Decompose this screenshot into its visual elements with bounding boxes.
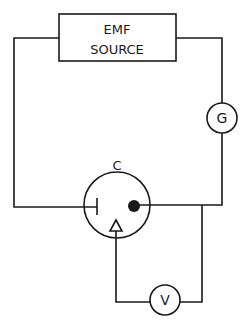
left-wire <box>14 38 97 207</box>
cell-triangle-electrode <box>110 220 122 231</box>
voltmeter: V <box>150 285 180 315</box>
emf-source-label-line2: SOURCE <box>90 42 144 57</box>
voltmeter-left-wire <box>116 231 150 302</box>
cell: C <box>84 158 150 238</box>
cell-label: C <box>112 158 121 173</box>
bottom-right-wire <box>139 133 222 205</box>
cell-dot-electrode <box>128 200 140 212</box>
galvanometer-label: G <box>217 110 228 126</box>
top-right-wire <box>176 38 222 103</box>
voltmeter-right-wire <box>180 205 202 302</box>
emf-source-label-line1: EMF <box>104 22 131 37</box>
circuit-diagram: EMF SOURCE G C V <box>0 0 246 323</box>
voltmeter-label: V <box>160 292 170 308</box>
emf-source: EMF SOURCE <box>59 14 176 61</box>
galvanometer: G <box>207 103 237 133</box>
